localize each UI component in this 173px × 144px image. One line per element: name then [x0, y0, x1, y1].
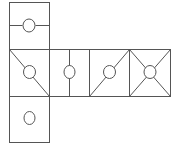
circle-icon — [23, 19, 35, 32]
face-top — [10, 3, 50, 50]
face-row-2 — [50, 50, 90, 97]
circle-icon — [104, 66, 116, 79]
circle-icon — [64, 66, 75, 79]
face-row-4 — [130, 50, 171, 97]
face-row-3 — [90, 50, 130, 97]
circle-icon — [144, 66, 156, 79]
face-row-1 — [10, 50, 50, 97]
face-bottom — [10, 97, 50, 143]
circle-icon — [24, 66, 36, 79]
cube-net-diagram — [0, 0, 173, 144]
circle-icon — [24, 112, 35, 125]
